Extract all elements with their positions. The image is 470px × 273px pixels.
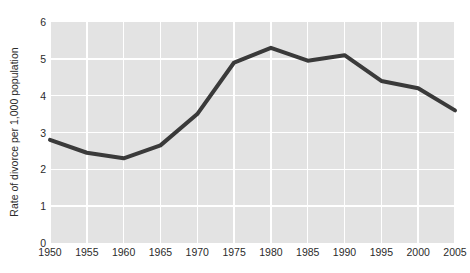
x-axis-tick-label: 1975 [222, 247, 245, 258]
x-axis-tick-label: 2005 [443, 247, 466, 258]
x-axis-tick-label: 2000 [406, 247, 429, 258]
y-axis-tick-labels: 0123456 [24, 0, 46, 273]
divorce-rate-polyline [50, 48, 455, 159]
data-series-line [50, 22, 455, 243]
y-axis-title-text: Rate of divorce per 1,000 population [8, 47, 20, 216]
x-axis-tick-label: 1970 [186, 247, 209, 258]
x-axis-tick-label: 1965 [149, 247, 172, 258]
x-axis-tick-label: 1990 [333, 247, 356, 258]
x-axis-tick-label: 1995 [370, 247, 393, 258]
y-axis-tick-label: 6 [28, 17, 46, 28]
x-axis-tick-label: 1950 [38, 247, 61, 258]
x-axis-tick-label: 1985 [296, 247, 319, 258]
y-axis-tick-label: 4 [28, 90, 46, 101]
x-axis-tick-label: 1955 [75, 247, 98, 258]
x-axis-tick-labels: 1950195519601965197019751980198519901995… [50, 247, 455, 267]
x-axis-tick-label: 1960 [112, 247, 135, 258]
x-axis-tick-label: 1980 [259, 247, 282, 258]
divorce-rate-line-chart: Rate of divorce per 1,000 population 012… [0, 0, 470, 273]
y-axis-tick-label: 5 [28, 54, 46, 65]
plot-area [50, 22, 455, 243]
y-axis-tick-label: 2 [28, 164, 46, 175]
y-axis-tick-label: 1 [28, 201, 46, 212]
y-axis-tick-label: 3 [28, 127, 46, 138]
y-axis-title: Rate of divorce per 1,000 population [4, 18, 24, 246]
